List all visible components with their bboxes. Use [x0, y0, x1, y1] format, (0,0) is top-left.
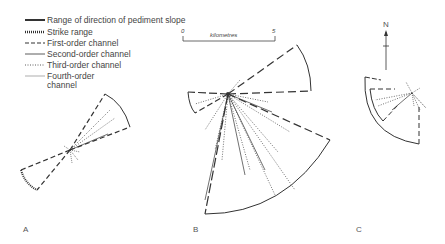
- panel-label-c: C: [356, 225, 362, 234]
- diagram-canvas: Range of direction of pediment slope Str…: [0, 0, 445, 244]
- legend-strike-range: Strike range: [47, 27, 93, 37]
- scale-start: 0: [181, 28, 185, 34]
- scale-end: 5: [272, 28, 276, 34]
- legend: Range of direction of pediment slope Str…: [25, 15, 186, 90]
- scale-unit: kilometres: [210, 32, 237, 38]
- legend-fourth-order-l2: channel: [47, 80, 77, 90]
- legend-pediment-slope: Range of direction of pediment slope: [47, 15, 186, 25]
- rose-diagram-c: N: [365, 20, 426, 144]
- scale-bar: 0 5 kilometres: [181, 28, 276, 41]
- legend-first-order: First-order channel: [47, 38, 118, 48]
- panel-label-a: A: [23, 225, 29, 234]
- panel-label-b: B: [193, 225, 198, 234]
- rose-diagram-b: [188, 45, 330, 214]
- rose-diagram-a: [21, 94, 130, 190]
- north-label: N: [383, 20, 389, 29]
- legend-third-order: Third-order channel: [47, 60, 121, 70]
- north-arrow-icon: N: [383, 20, 389, 70]
- legend-second-order: Second-order channel: [47, 49, 131, 59]
